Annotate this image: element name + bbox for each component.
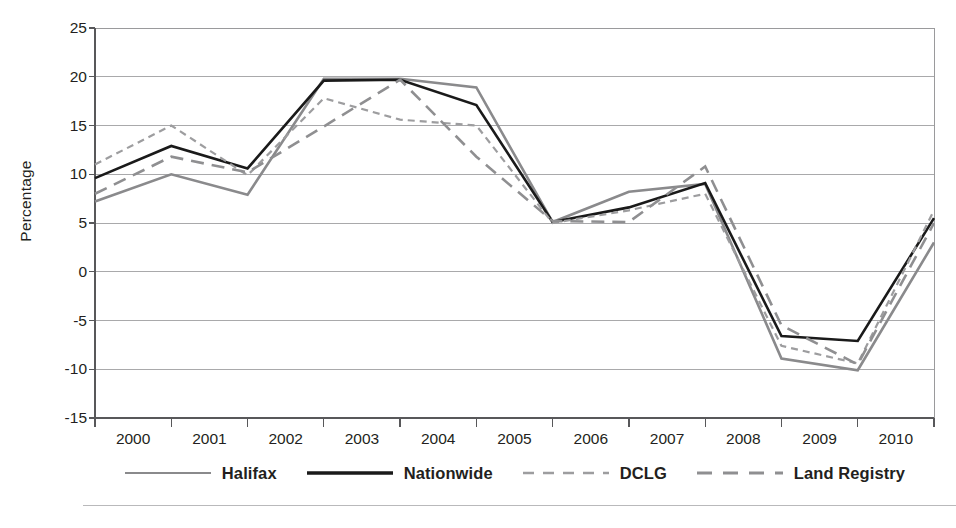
- gridlines: [95, 28, 934, 418]
- legend-label: Halifax: [222, 464, 277, 483]
- series-line-dclg: [95, 98, 934, 363]
- solid-black-line-icon: [307, 467, 393, 479]
- solid-gray-line-icon: [125, 467, 211, 479]
- legend-entry-land-registry[interactable]: Land Registry: [697, 464, 905, 483]
- long-dashed-line-icon: [697, 467, 783, 479]
- legend-label: Nationwide: [404, 464, 493, 483]
- chart-plot-area: [0, 0, 956, 528]
- chart-figure: Percentage 2520151050-5-10-15 2000200120…: [0, 0, 956, 528]
- footer-divider: [83, 505, 956, 506]
- legend-entry-nationwide[interactable]: Nationwide: [307, 464, 493, 483]
- legend-label: Land Registry: [794, 464, 905, 483]
- legend-spacer: [277, 473, 307, 474]
- legend-label: DCLG: [620, 464, 667, 483]
- series-line-land-registry: [95, 80, 934, 365]
- series-line-nationwide: [95, 80, 934, 341]
- legend-spacer: [493, 473, 523, 474]
- axes: [89, 28, 934, 427]
- fine-dashed-line-icon: [523, 467, 609, 479]
- legend-spacer: [667, 473, 697, 474]
- legend-entry-dclg[interactable]: DCLG: [523, 464, 667, 483]
- chart-legend: HalifaxNationwideDCLGLand Registry: [96, 458, 934, 488]
- series-line-halifax: [95, 79, 934, 371]
- legend-entry-halifax[interactable]: Halifax: [125, 464, 277, 483]
